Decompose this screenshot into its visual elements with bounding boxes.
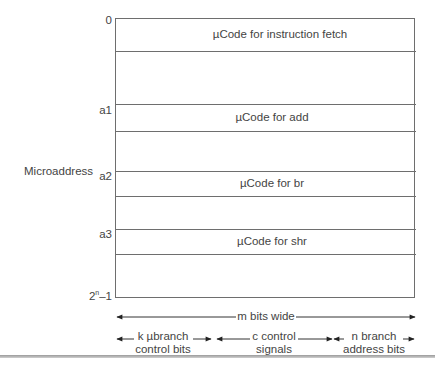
width-label: m bits wide bbox=[237, 310, 295, 322]
arrows-layer bbox=[0, 0, 435, 371]
bottom-rule bbox=[0, 355, 435, 358]
field-c-control: c control signals bbox=[252, 330, 295, 356]
field-k-branch: k µbranch control bits bbox=[135, 330, 191, 356]
field-c-line1: c control bbox=[252, 330, 295, 343]
field-n-branch: n branch address bits bbox=[343, 330, 405, 356]
field-k-line1: k µbranch bbox=[135, 330, 191, 343]
field-n-line1: n branch bbox=[343, 330, 405, 343]
